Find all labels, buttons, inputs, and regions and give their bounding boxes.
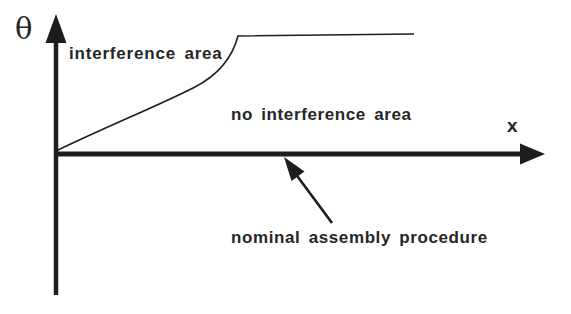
no-interference-area-label: no interference area [231,105,412,125]
x-axis-arrowhead-icon [520,144,545,165]
interference-area-label: interference area [69,44,223,64]
y-axis-arrowhead-icon [46,14,67,43]
nominal-assembly-procedure-label: nominal assembly procedure [231,228,488,248]
x-axis-label: x [507,115,518,137]
annotation-arrow-shaft [295,173,332,223]
assembly-interference-diagram: θ x interference area no interference ar… [0,0,571,314]
annotation-arrowhead-icon [284,157,305,181]
y-axis-label: θ [15,12,32,46]
